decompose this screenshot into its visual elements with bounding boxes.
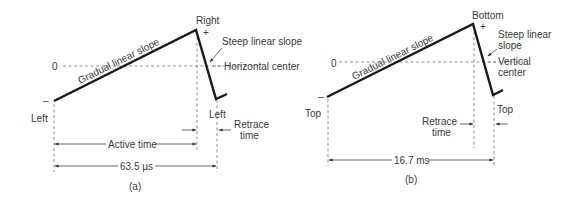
panel-b-vertical-sawtooth: 0 – + Bottom Gradual linear slope Steep … <box>305 10 552 185</box>
minus-label: – <box>318 91 324 102</box>
gradual-slope-label: Gradual linear slope <box>350 32 435 82</box>
vertical-center-label-line1: Vertical <box>498 56 531 67</box>
plus-label: + <box>480 21 486 32</box>
period-label: 16.7 ms <box>394 155 430 166</box>
steep-slope-label: Steep linear slope <box>222 36 302 47</box>
steep-slope-label-line1: Steep linear <box>498 29 552 40</box>
vertical-center-label-line2: center <box>498 67 526 78</box>
sawtooth-deflection-diagram: 0 – + Right Gradual linear slope Steep l… <box>0 0 575 202</box>
retrace-label-line2: time <box>432 127 451 138</box>
plus-label: + <box>203 27 209 38</box>
sawtooth-waveform <box>54 30 227 101</box>
active-time-label: Active time <box>108 139 157 150</box>
peak-label: Right <box>196 15 220 26</box>
sawtooth-waveform <box>327 24 503 97</box>
end-top-label: Top <box>497 104 514 115</box>
period-label: 63.5 µs <box>120 161 153 172</box>
steep-slope-label-line2: slope <box>498 40 522 51</box>
zero-label: 0 <box>331 58 337 69</box>
panel-a-caption: (a) <box>129 181 141 192</box>
gradual-slope-label: Gradual linear slope <box>76 36 161 86</box>
peak-label: Bottom <box>472 10 504 21</box>
steep-slope-callout-line <box>210 48 222 62</box>
zero-label: 0 <box>52 61 58 72</box>
start-top-label: Top <box>305 108 322 119</box>
retrace-label-line1: Retrace <box>422 116 457 127</box>
steep-slope-callout-line <box>488 49 497 56</box>
panel-b-caption: (b) <box>405 174 417 185</box>
retrace-label-line1: Retrace <box>234 119 269 130</box>
minus-label: – <box>43 95 49 106</box>
retrace-label-line2: time <box>240 130 259 141</box>
end-left-label: Left <box>209 109 226 120</box>
start-left-label: Left <box>31 113 48 124</box>
panel-a-horizontal-sawtooth: 0 – + Right Gradual linear slope Steep l… <box>31 15 302 192</box>
horizontal-center-label: Horizontal center <box>224 61 300 72</box>
